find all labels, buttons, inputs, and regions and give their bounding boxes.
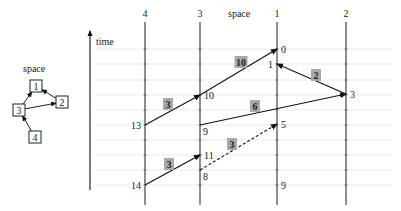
- process-label: 3: [198, 8, 203, 19]
- topology-nodes: 1234: [13, 80, 68, 143]
- spacetime-diagram: space 1234 time space 4312 3102633 01310…: [0, 0, 401, 211]
- process-line-4: 4: [143, 8, 148, 205]
- message-weight-box: 3: [227, 138, 237, 150]
- event-label: 14: [131, 180, 141, 191]
- message-weight-box: 6: [250, 100, 260, 112]
- process-line-3: 3: [198, 8, 203, 205]
- event-label: 0: [281, 44, 286, 55]
- topology-node-label: 1: [34, 81, 39, 92]
- process-label: 2: [344, 8, 349, 19]
- svg-text:2: 2: [314, 70, 319, 81]
- message-weight-box: 10: [235, 56, 248, 68]
- process-line-2: 2: [344, 8, 349, 205]
- event-label: 13: [131, 120, 141, 131]
- svg-text:6: 6: [253, 101, 258, 112]
- topology-node-4: 4: [29, 131, 41, 143]
- topology-node-label: 3: [17, 105, 22, 116]
- spacetime-plot: time space 4312 3102633 013101395118149: [90, 8, 392, 205]
- event-label: 3: [350, 89, 355, 100]
- process-lines: 4312: [143, 8, 349, 205]
- space-axis-label: space: [228, 8, 251, 19]
- event-label: 9: [281, 180, 286, 191]
- process-line-1: 1: [275, 8, 280, 205]
- message-weight-box: 2: [311, 69, 321, 81]
- event-label: 9: [203, 126, 208, 137]
- process-label: 4: [143, 8, 148, 19]
- topology-node-label: 4: [33, 132, 38, 143]
- event-label: 8: [203, 171, 208, 182]
- svg-text:10: 10: [236, 57, 246, 68]
- svg-text:3: 3: [230, 139, 235, 150]
- process-label: 1: [275, 8, 280, 19]
- message-arrow-dashed: [200, 124, 277, 170]
- event-label: 5: [281, 119, 286, 130]
- time-axis-label: time: [96, 36, 114, 47]
- topology-edge: [23, 116, 32, 131]
- svg-text:3: 3: [167, 159, 172, 170]
- message-weight-box: 3: [164, 158, 174, 170]
- topology-node-label: 2: [60, 97, 65, 108]
- event-label: 1: [268, 59, 273, 70]
- svg-text:3: 3: [166, 99, 171, 110]
- topology-node-1: 1: [30, 80, 42, 92]
- event-label: 10: [204, 90, 214, 101]
- topology-node-2: 2: [56, 96, 68, 108]
- topology-graph: space 1234: [13, 63, 68, 143]
- message-arrow: [200, 94, 346, 125]
- event-label: 11: [204, 150, 214, 161]
- topology-edge: [42, 90, 56, 99]
- topology-edges: [23, 90, 56, 131]
- topology-title: space: [23, 63, 46, 74]
- topology-edge: [25, 103, 56, 109]
- topology-edge: [23, 92, 32, 104]
- message-weight-box: 3: [163, 98, 173, 110]
- topology-node-3: 3: [13, 104, 25, 116]
